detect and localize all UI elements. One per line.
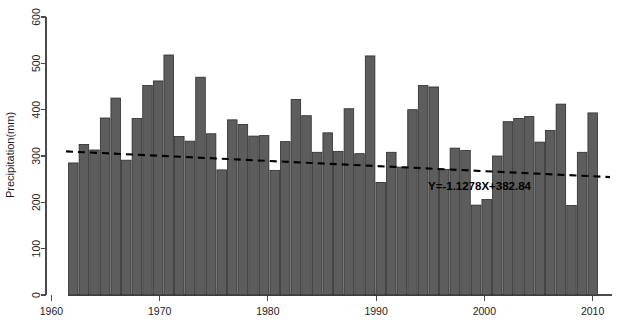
x-tick-label: 2010 bbox=[581, 305, 605, 317]
x-axis: 196019701980199020002010 bbox=[40, 295, 612, 317]
bar bbox=[503, 122, 513, 295]
x-tick-label: 1970 bbox=[148, 305, 172, 317]
bar bbox=[493, 156, 503, 295]
bar bbox=[556, 104, 566, 295]
bar bbox=[365, 56, 375, 295]
bar bbox=[535, 142, 545, 295]
x-tick-label: 1960 bbox=[40, 305, 64, 317]
bar bbox=[344, 109, 354, 295]
bar bbox=[334, 151, 344, 295]
bar bbox=[418, 86, 428, 295]
bar bbox=[196, 77, 206, 295]
bar bbox=[153, 81, 163, 295]
bar bbox=[514, 118, 524, 295]
bar bbox=[228, 120, 238, 295]
bar bbox=[546, 131, 556, 295]
bar bbox=[588, 113, 598, 295]
chart-annotations: Y=-1.1278X+382.84 bbox=[428, 180, 532, 192]
bar bbox=[408, 110, 418, 295]
x-tick-label: 1990 bbox=[364, 305, 388, 317]
bar bbox=[185, 141, 195, 295]
bar bbox=[79, 144, 89, 295]
y-tick-label: 100 bbox=[30, 240, 42, 258]
bar bbox=[302, 116, 312, 295]
y-tick-label: 0 bbox=[30, 292, 42, 298]
bar bbox=[143, 86, 153, 295]
bar bbox=[90, 150, 100, 295]
bar bbox=[312, 152, 322, 295]
bar bbox=[132, 118, 142, 295]
bar bbox=[471, 205, 481, 295]
bar bbox=[175, 137, 185, 295]
bar bbox=[69, 163, 79, 295]
y-tick-label: 400 bbox=[30, 101, 42, 119]
y-tick-label: 200 bbox=[30, 193, 42, 211]
bar bbox=[461, 150, 471, 295]
trend-equation: Y=-1.1278X+382.84 bbox=[428, 180, 532, 192]
x-tick-label: 1980 bbox=[256, 305, 280, 317]
chart-canvas: 0100200300400500600 19601970198019902000… bbox=[0, 0, 626, 329]
y-tick-label: 500 bbox=[30, 54, 42, 72]
bar-series bbox=[69, 55, 598, 295]
bar bbox=[355, 154, 365, 295]
bar bbox=[397, 167, 407, 295]
x-tick-label: 2000 bbox=[473, 305, 497, 317]
bar bbox=[281, 142, 291, 295]
y-axis: 0100200300400500600 bbox=[30, 8, 46, 298]
bar bbox=[164, 55, 174, 295]
bar bbox=[270, 170, 280, 295]
bar bbox=[482, 200, 492, 295]
y-axis-title: Precipitation(mm) bbox=[4, 112, 16, 198]
precipitation-bar-chart: 0100200300400500600 19601970198019902000… bbox=[0, 0, 626, 329]
y-tick-label: 600 bbox=[30, 8, 42, 26]
bar bbox=[387, 152, 397, 295]
bar bbox=[577, 152, 587, 295]
bar bbox=[376, 182, 386, 295]
y-tick-label: 300 bbox=[30, 147, 42, 165]
bar bbox=[238, 124, 248, 295]
bar bbox=[524, 117, 534, 295]
bar bbox=[567, 206, 577, 295]
bar bbox=[323, 133, 333, 295]
bar bbox=[259, 136, 269, 295]
bar bbox=[111, 98, 121, 295]
bar bbox=[291, 99, 301, 295]
bar bbox=[217, 170, 227, 295]
bar bbox=[100, 118, 110, 295]
bar bbox=[122, 160, 132, 295]
